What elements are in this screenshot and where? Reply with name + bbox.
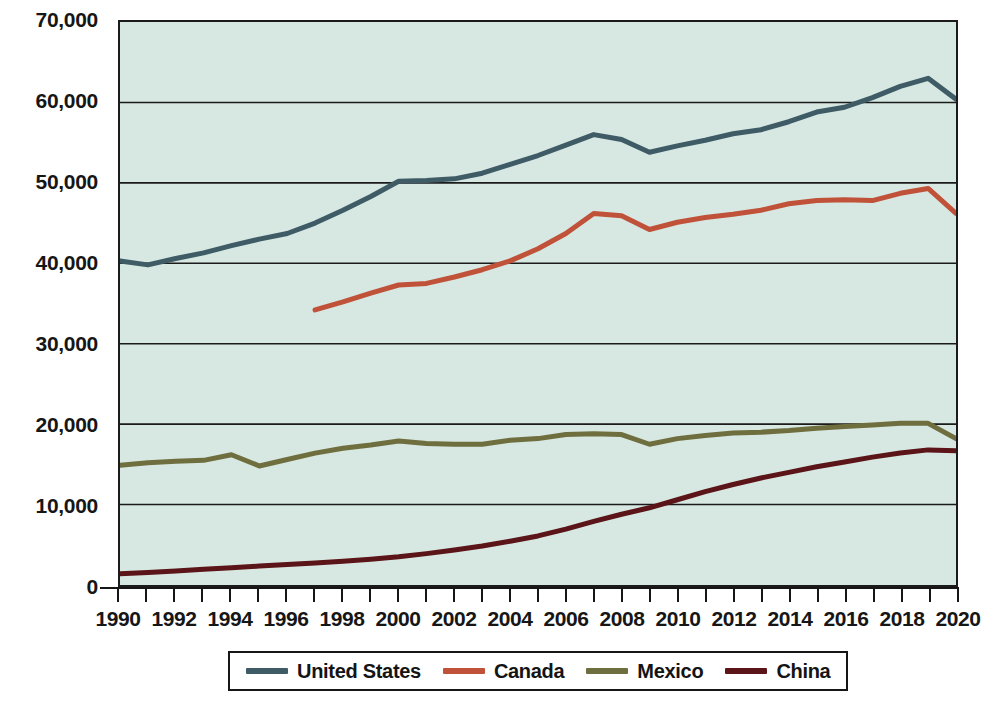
x-tick <box>397 587 399 602</box>
x-tick <box>565 587 567 602</box>
x-tick <box>817 587 819 602</box>
x-tick <box>425 587 427 602</box>
x-axis-ticks <box>118 587 958 605</box>
x-tick-label: 2014 <box>767 607 812 631</box>
y-tick-label: 70,000 <box>36 8 98 32</box>
legend-label: Canada <box>494 660 564 683</box>
series-line-canada <box>315 188 956 309</box>
x-tick <box>369 587 371 602</box>
x-tick <box>145 587 147 602</box>
legend-label: China <box>776 660 830 683</box>
series-line-mexico <box>120 423 956 466</box>
x-tick <box>873 587 875 602</box>
x-tick <box>285 587 287 602</box>
legend-label: Mexico <box>637 660 703 683</box>
y-tick-label: 0 <box>87 575 98 599</box>
legend-label: United States <box>297 660 421 683</box>
legend-item-china[interactable]: China <box>725 660 830 683</box>
x-tick <box>789 587 791 602</box>
x-tick <box>201 587 203 602</box>
x-tick-label: 2020 <box>935 607 980 631</box>
x-axis-labels: 1990199219941996199820002002200420062008… <box>118 607 958 635</box>
x-tick <box>313 587 315 602</box>
x-tick-label: 2016 <box>823 607 868 631</box>
series-lines <box>120 78 956 573</box>
y-tick-label: 60,000 <box>36 89 98 113</box>
x-tick <box>929 587 931 602</box>
x-tick-label: 1994 <box>207 607 252 631</box>
y-axis: 010,00020,00030,00040,00050,00060,00070,… <box>0 20 108 587</box>
series-line-united-states <box>120 78 956 265</box>
chart-legend: United StatesCanadaMexicoChina <box>228 651 848 691</box>
x-tick-label: 1990 <box>95 607 140 631</box>
series-line-china <box>120 450 956 574</box>
x-tick <box>173 587 175 602</box>
y-tick-label: 20,000 <box>36 413 98 437</box>
x-tick-label: 1992 <box>151 607 196 631</box>
x-tick <box>957 587 959 602</box>
y-tick-label: 50,000 <box>36 170 98 194</box>
x-tick <box>845 587 847 602</box>
x-tick-label: 2008 <box>599 607 644 631</box>
x-tick-label: 2012 <box>711 607 756 631</box>
x-tick <box>453 587 455 602</box>
x-tick <box>481 587 483 602</box>
x-tick-label: 1998 <box>319 607 364 631</box>
legend-item-canada[interactable]: Canada <box>443 660 564 683</box>
x-tick <box>257 587 259 602</box>
y-tick-label: 30,000 <box>36 332 98 356</box>
y-tick-label: 10,000 <box>36 494 98 518</box>
legend-swatch-icon <box>443 668 485 674</box>
x-tick-label: 2018 <box>879 607 924 631</box>
legend-swatch-icon <box>586 668 628 674</box>
plot-svg <box>120 22 956 585</box>
x-tick <box>593 587 595 602</box>
x-tick <box>537 587 539 602</box>
legend-item-united-states[interactable]: United States <box>246 660 421 683</box>
x-tick <box>117 587 119 602</box>
x-tick <box>901 587 903 602</box>
x-tick <box>229 587 231 602</box>
x-tick <box>761 587 763 602</box>
legend-swatch-icon <box>246 668 288 674</box>
plot-area <box>118 20 958 587</box>
x-tick-label: 2006 <box>543 607 588 631</box>
x-tick-label: 2010 <box>655 607 700 631</box>
legend-swatch-icon <box>725 668 767 674</box>
x-tick <box>509 587 511 602</box>
x-tick-label: 2004 <box>487 607 532 631</box>
x-tick <box>649 587 651 602</box>
legend-item-mexico[interactable]: Mexico <box>586 660 703 683</box>
x-tick <box>705 587 707 602</box>
gridlines <box>120 102 956 504</box>
x-tick-label: 1996 <box>263 607 308 631</box>
x-tick <box>341 587 343 602</box>
x-tick-label: 2002 <box>431 607 476 631</box>
x-tick <box>733 587 735 602</box>
x-tick-label: 2000 <box>375 607 420 631</box>
x-tick <box>677 587 679 602</box>
x-tick <box>621 587 623 602</box>
y-tick-label: 40,000 <box>36 251 98 275</box>
